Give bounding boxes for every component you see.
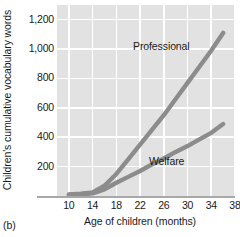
panel-letter: (b): [3, 219, 16, 232]
series-label-professional: Professional: [133, 40, 190, 52]
line-professional: [69, 33, 223, 195]
y-axis-title: Children's cumulative vocabulary words: [0, 0, 14, 200]
x-axis-tick-labels: 10 14 18 22 26 30 34 38: [57, 199, 235, 213]
y-tick-label: 200: [16, 161, 54, 172]
x-axis-line: [37, 196, 235, 198]
y-axis-tick-labels: 1,200 1,000 800 600 400 200: [16, 0, 54, 196]
y-tick-label: 600: [16, 102, 54, 113]
y-tick-label: 1,200: [16, 14, 54, 25]
x-tick-label: 38: [220, 199, 240, 212]
y-tick-label: 400: [16, 131, 54, 142]
figure-panel-b: Children's cumulative vocabulary words 1…: [0, 0, 240, 237]
series-lines: [57, 5, 235, 196]
y-tick-label: 1,000: [16, 43, 54, 54]
series-label-welfare: Welfare: [149, 155, 184, 167]
plot-area: Professional Welfare: [57, 5, 235, 196]
x-axis-title: Age of children (months): [45, 215, 235, 228]
y-tick-label: 800: [16, 72, 54, 83]
